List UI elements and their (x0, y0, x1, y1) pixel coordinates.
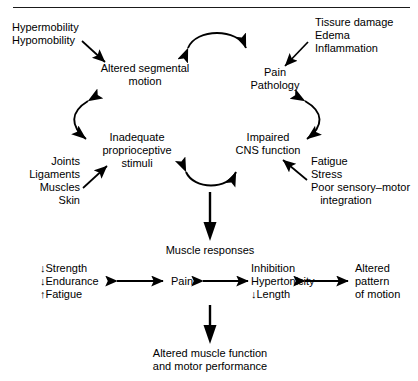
connector-proprioceptive-to-cns (186, 172, 236, 186)
connector-tissue-damage-to-pain-pathology (285, 42, 308, 66)
node-tissue-damage: Tissure damage Edema Inflammation (315, 16, 415, 55)
node-strength-endurance: ↓Strength ↓Endurance ↑Fatigue (40, 262, 116, 301)
node-fatigue-stress: Fatigue Stress Poor sensory–motor integr… (311, 155, 415, 207)
node-pain: Pain (160, 275, 204, 288)
node-hypermobility: Hypermobility Hypomobility (12, 21, 112, 47)
connector-altered-motion-to-pain-pathology (188, 33, 246, 48)
node-inhibition: Inhibition Hypertonicity ↓Length (251, 262, 327, 301)
node-altered-segmental-motion: Altered segmental motion (90, 62, 200, 88)
node-pain-pathology: Pain Pathology (235, 66, 315, 92)
node-altered-muscle-function: Altered muscle function and motor perfor… (120, 347, 300, 373)
connector-to-altered-muscle-function (204, 305, 217, 344)
node-impaired-cns: Impaired CNS function (222, 131, 314, 157)
diagram-canvas: Hypermobility Hypomobility Altered segme… (0, 0, 418, 381)
node-inadequate-proprioceptive: Inadequate proprioceptive stimuli (85, 131, 189, 170)
node-altered-pattern: Altered pattern of motion (355, 262, 418, 301)
connector-to-muscle-responses (204, 192, 217, 241)
node-muscle-responses: Muscle responses (150, 244, 270, 257)
connector-fatigue-to-cns (283, 160, 307, 180)
node-joints-ligaments: Joints Ligaments Muscles Skin (8, 155, 80, 207)
